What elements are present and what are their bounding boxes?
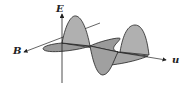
wave-drawing bbox=[0, 0, 191, 88]
propagation-label: u bbox=[172, 55, 179, 65]
electric-field-label: E bbox=[56, 4, 64, 14]
magnetic-field-label: B bbox=[13, 46, 21, 56]
em-wave-diagram: E B u bbox=[0, 0, 191, 88]
